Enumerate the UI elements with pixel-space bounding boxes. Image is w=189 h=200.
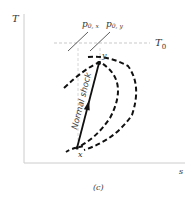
caption: (c) bbox=[93, 183, 104, 192]
point-y-marker bbox=[97, 61, 101, 65]
y-axis-label: T bbox=[12, 13, 20, 24]
isobar-y-label: p0, y bbox=[106, 19, 123, 30]
point-x-label: x bbox=[78, 150, 83, 159]
t0-label: T0 bbox=[155, 37, 166, 51]
ts-diagram: T s T0 p0, x p0, y y x Normal shock (c) bbox=[0, 0, 189, 200]
isobar-x-label: p0, x bbox=[82, 19, 99, 29]
x-axis-label: s bbox=[179, 167, 183, 176]
point-y-label: y bbox=[101, 51, 107, 60]
